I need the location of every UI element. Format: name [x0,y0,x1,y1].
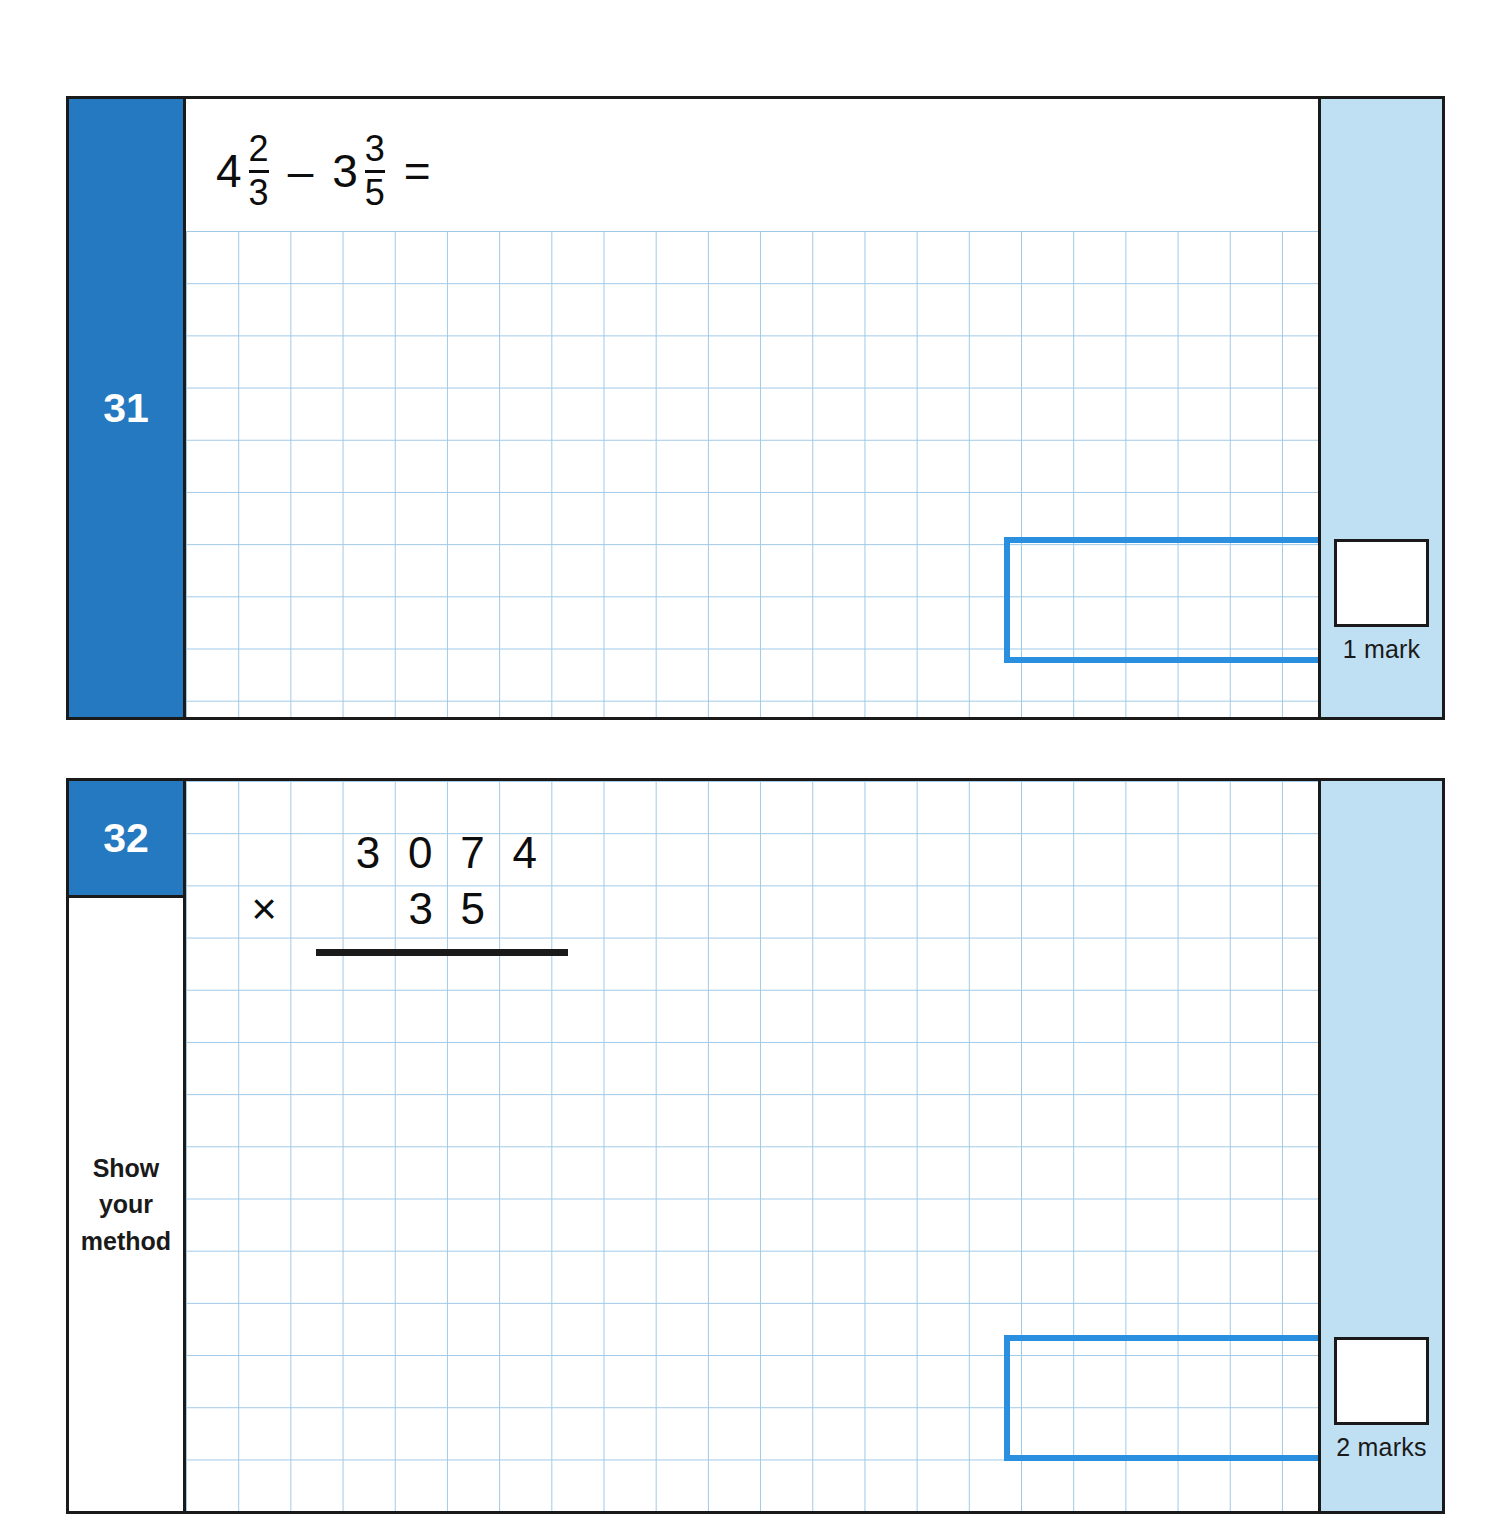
multiplicand-digit-0: 3 [342,831,394,875]
marks-column-32: 2 marks [1318,781,1442,1511]
working-area-32: 3 0 7 4 × 3 5 [186,781,1318,1511]
whole-part-second: 3 [332,148,358,194]
marker-score-box-32[interactable] [1334,1337,1429,1425]
multiplier-row: × 3 5 [238,887,499,931]
answer-box-31[interactable] [1004,537,1318,663]
minus-operator: – [288,144,314,198]
equals-sign: = [404,144,431,198]
multiplication-rule-line [316,949,568,956]
multiplicand-digit-3: 4 [499,831,551,875]
question-number-column-31: 31 [69,99,186,717]
mark-group-32: 2 marks [1321,1337,1442,1462]
marks-label-32: 2 marks [1336,1433,1426,1462]
show-your-method-label: Show your method [69,898,183,1511]
denominator-second: 5 [365,170,385,213]
multiplier-digit-0: 3 [395,887,447,931]
question-prompt-31: 4 2 3 – 3 3 5 = [216,115,450,227]
question-block-31: 31 4 2 3 – 3 3 5 [66,96,1445,720]
question-block-32: 32 Show your method 3 0 7 4 × [66,778,1445,1514]
fraction-first: 2 3 [249,130,269,213]
numerator-first: 2 [249,130,269,170]
marks-label-31: 1 mark [1343,635,1421,664]
mixed-number-second: 3 3 5 [332,130,385,213]
marks-column-31: 1 mark [1318,99,1442,717]
mark-group-31: 1 mark [1321,539,1442,664]
question-number-column-32: 32 Show your method [69,781,186,1511]
multiplicand-digit-2: 7 [446,831,498,875]
answer-box-32[interactable] [1004,1335,1318,1461]
fraction-second: 3 5 [365,130,385,213]
whole-part-first: 4 [216,148,242,194]
question-number-badge-32: 32 [69,781,183,898]
multiply-operator: × [238,887,290,931]
marker-score-box-31[interactable] [1334,539,1429,627]
multiplicand-digit-1: 0 [394,831,446,875]
show-method-line-3: method [81,1223,171,1259]
denominator-first: 3 [249,170,269,213]
show-method-line-2: your [99,1186,153,1222]
working-area-31: 4 2 3 – 3 3 5 = [186,99,1318,717]
question-number-badge-31: 31 [69,99,183,717]
multiplier-digit-1: 5 [447,887,499,931]
multiplicand-row: 3 0 7 4 [342,831,551,875]
mixed-number-first: 4 2 3 [216,130,269,213]
show-method-line-1: Show [93,1150,160,1186]
numerator-second: 3 [365,130,385,170]
exam-page: 31 4 2 3 – 3 3 5 [0,0,1494,1526]
